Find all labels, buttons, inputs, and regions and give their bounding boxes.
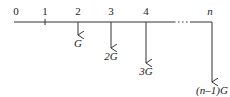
flow-label-4: 3G	[138, 65, 153, 77]
period-label-4: 4	[143, 5, 149, 17]
cash-flow-diagram: 0 1 2 3 4 n G 2G 3G (n–1)G	[0, 0, 230, 97]
flow-label-2: G	[74, 37, 82, 49]
period-label-2: 2	[75, 5, 81, 17]
period-label-1: 1	[42, 5, 48, 17]
flow-label-3: 2G	[104, 50, 118, 62]
period-label-0: 0	[13, 5, 19, 17]
period-label-n: n	[207, 5, 213, 17]
period-label-3: 3	[108, 5, 114, 17]
flow-label-n: (n–1)G	[196, 84, 228, 97]
